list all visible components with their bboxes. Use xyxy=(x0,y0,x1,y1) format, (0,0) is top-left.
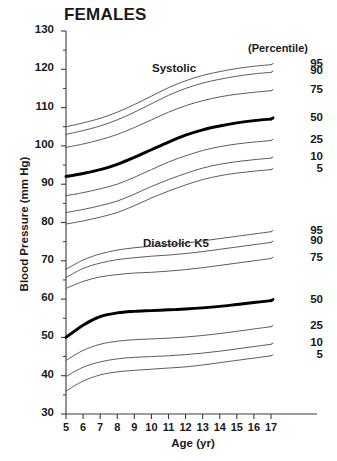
y-tick-label: 110 xyxy=(18,100,54,112)
y-tick-label: 130 xyxy=(18,23,54,35)
curve-leader-line xyxy=(271,299,273,300)
percentile-curve-diastolic-k5-p10 xyxy=(66,344,271,376)
curve-leader-line xyxy=(271,257,273,258)
curve-leader-line xyxy=(271,90,273,91)
curve-leader-line xyxy=(271,64,273,65)
y-tick-label: 120 xyxy=(18,61,54,73)
percentile-label-systolic-p90: 90 xyxy=(297,64,323,76)
y-tick-label: 70 xyxy=(18,253,54,265)
percentile-curve-diastolic-k5-p5 xyxy=(66,356,271,391)
percentile-label-systolic-p75: 75 xyxy=(297,83,323,95)
percentile-curve-systolic-p90 xyxy=(66,72,271,134)
blood-pressure-percentile-chart: FEMALES Blood Pressure (mm Hg) Age (yr) … xyxy=(0,0,337,461)
percentile-label-diastolic-k5-p10: 10 xyxy=(297,336,323,348)
percentile-label-diastolic-k5-p25: 25 xyxy=(297,319,323,331)
percentile-label-systolic-p5: 5 xyxy=(297,162,323,174)
y-tick-label: 50 xyxy=(18,329,54,341)
percentile-label-diastolic-k5-p75: 75 xyxy=(297,251,323,263)
curve-leader-line xyxy=(271,168,273,169)
percentile-curve-systolic-p5 xyxy=(66,170,271,224)
percentile-label-systolic-p50: 50 xyxy=(297,111,323,123)
curve-leader-line xyxy=(271,139,273,140)
percentile-label-diastolic-k5-p5: 5 xyxy=(297,348,323,360)
y-tick-label: 80 xyxy=(18,215,54,227)
curve-leader-line xyxy=(271,343,273,344)
curve-leader-line xyxy=(271,325,273,326)
curve-leader-line xyxy=(271,71,273,72)
curve-leader-line xyxy=(271,230,273,231)
x-tick-label: 17 xyxy=(260,421,282,433)
curve-leader-line xyxy=(271,355,273,356)
percentile-curve-diastolic-k5-p25 xyxy=(66,327,271,361)
percentile-label-diastolic-k5-p90: 90 xyxy=(297,234,323,246)
percentile-label-diastolic-k5-p50: 50 xyxy=(297,293,323,305)
percentile-curve-diastolic-k5-p90 xyxy=(66,242,271,277)
curve-leader-line xyxy=(271,157,273,158)
axes xyxy=(61,31,317,419)
y-tick-label: 100 xyxy=(18,138,54,150)
y-tick-label: 40 xyxy=(18,368,54,380)
percentile-label-systolic-p25: 25 xyxy=(297,133,323,145)
y-tick-label: 60 xyxy=(18,291,54,303)
percentile-curve-systolic-p50 xyxy=(66,119,271,176)
percentile-label-systolic-p10: 10 xyxy=(297,150,323,162)
curve-leader-line xyxy=(271,241,273,242)
y-tick-label: 90 xyxy=(18,176,54,188)
curve-leader-line xyxy=(271,118,273,119)
percentile-curve-systolic-p25 xyxy=(66,141,271,196)
percentile-curve-systolic-p10 xyxy=(66,158,271,212)
percentile-curve-diastolic-k5-p75 xyxy=(66,259,271,289)
percentile-curves xyxy=(66,64,273,392)
y-tick-label: 30 xyxy=(18,406,54,418)
percentile-curve-diastolic-k5-p50 xyxy=(66,301,271,338)
